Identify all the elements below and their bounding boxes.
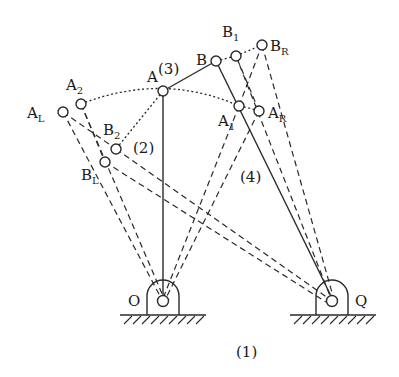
label-BR: BR	[270, 37, 289, 57]
rocker-BL-Q	[105, 162, 326, 302]
label-B1: B1	[222, 23, 239, 43]
label-rocker: (4)	[240, 168, 261, 186]
label-B: B	[196, 51, 207, 69]
coupler-A1-BR	[239, 45, 262, 106]
label-B2: B2	[103, 121, 120, 141]
coupler-A2-BL	[81, 104, 105, 162]
pivot-Q	[327, 296, 338, 307]
joint-A2	[76, 99, 86, 109]
joint-A	[158, 86, 168, 96]
label-crank: (2)	[133, 139, 154, 157]
label-A: A	[146, 68, 158, 86]
joint-BR	[257, 40, 267, 50]
joint-B2	[111, 144, 121, 154]
label-A1: A1	[217, 112, 235, 132]
label-A2: A2	[65, 76, 83, 96]
label-AL: AL	[26, 104, 45, 124]
joint-BL	[100, 157, 110, 167]
joint-B1	[231, 51, 241, 61]
crank-AR-O	[167, 111, 259, 296]
rocker-link	[216, 61, 331, 296]
rocker-BR-Q	[262, 45, 333, 296]
label-AR: AR	[267, 104, 287, 124]
joint-AL	[58, 107, 68, 117]
joint-A1	[234, 101, 244, 111]
label-Q: Q	[355, 292, 367, 310]
label-coupler: (3)	[158, 60, 179, 78]
pivot-O	[158, 296, 169, 307]
label-O: O	[128, 292, 140, 310]
joint-AR	[254, 106, 264, 116]
label-BL: BL	[81, 166, 99, 186]
joint-B	[211, 56, 221, 66]
linkage-diagram: A (3) B B1 BR A2 AL B2 BL (2) A1 AR (4) …	[0, 0, 399, 377]
label-ground: (1)	[236, 343, 257, 361]
crank-A1-O	[164, 106, 239, 296]
